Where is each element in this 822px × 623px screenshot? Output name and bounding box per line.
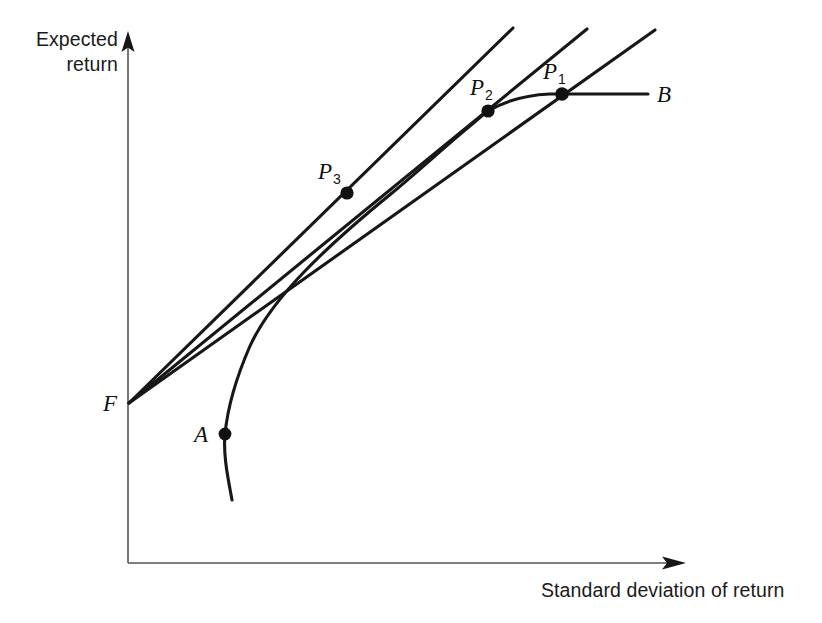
label-risk-free-f: F (103, 392, 117, 415)
efficient-frontier-curve (225, 94, 648, 500)
point-marker-p1 (555, 87, 569, 101)
point-marker-p2 (481, 104, 494, 117)
label-tangency-p2-subscript: 2 (485, 87, 493, 103)
label-tangency-p1-subscript: 1 (558, 71, 566, 87)
label-curve-start-a: A (194, 423, 208, 446)
label-tangency-p1: P1 (543, 60, 565, 83)
diagram-canvas (0, 0, 822, 623)
label-tangency-p2: P2 (470, 76, 492, 99)
label-tangency-p3-subscript: 3 (333, 171, 341, 187)
axes-group (122, 31, 687, 570)
y-axis-title: Expected return (14, 27, 118, 77)
cml-tangent-p2 (129, 29, 587, 403)
efficient-frontier-figure: Expected return Standard deviation of re… (0, 0, 822, 623)
label-tangency-p1-base: P (543, 59, 557, 84)
label-curve-end-b: B (657, 83, 671, 106)
point-marker-p3 (340, 186, 353, 199)
cml-tangent-p1 (129, 30, 655, 403)
capital-market-lines (129, 28, 655, 403)
label-tangency-p3-base: P (318, 159, 332, 184)
cml-tangent-p3 (129, 28, 513, 403)
label-tangency-p2-base: P (470, 75, 484, 100)
x-axis-title: Standard deviation of return (541, 578, 784, 603)
y-axis-title-line1: Expected (14, 27, 118, 52)
label-tangency-p3: P3 (318, 160, 340, 183)
y-axis-title-line2: return (14, 52, 118, 77)
point-marker-a (219, 428, 232, 441)
